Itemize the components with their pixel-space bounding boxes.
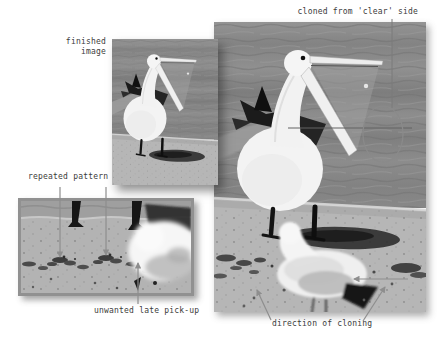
- label-finished-image-line2: image: [66, 47, 106, 57]
- pelican-scene-clean: [112, 39, 218, 185]
- label-cloned-from-clear-side: cloned from 'clear' side: [298, 7, 418, 17]
- label-unwanted-late-pickup: unwanted late pick-up: [94, 306, 199, 316]
- detail-crop-image: [18, 198, 194, 296]
- working-image-large: [214, 22, 426, 312]
- tutorial-figure: cloned from 'clear' side finished image …: [0, 0, 437, 339]
- label-repeated-pattern: repeated pattern: [28, 172, 108, 182]
- label-direction-of-cloning: direction of cloning: [272, 319, 372, 329]
- label-finished-image-line1: finished: [66, 37, 106, 47]
- label-finished-image: finished image: [66, 37, 106, 57]
- finished-image-thumbnail: [112, 39, 218, 185]
